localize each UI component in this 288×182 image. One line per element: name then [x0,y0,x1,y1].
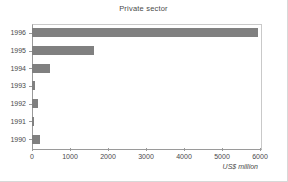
y-axis-tick [29,139,32,140]
x-axis-title: US$ million [223,163,258,170]
bar [32,81,35,90]
y-axis-tick-label: 1996 [0,24,29,42]
bar [32,99,38,108]
bar-row [32,113,260,131]
x-axis-tick [108,148,109,151]
bar [32,46,94,55]
y-axis-tick [29,121,32,122]
y-axis-tick [29,86,32,87]
y-axis-tick [29,68,32,69]
bar [32,135,40,144]
y-axis-tick-label: 1994 [0,59,29,77]
x-axis-tick-label: 5000 [214,153,230,160]
x-axis-tick [184,148,185,151]
y-axis-tick-label: 1993 [0,77,29,95]
bar-row [32,59,260,77]
x-axis-tick-label: 6000 [252,153,268,160]
bar-row [32,95,260,113]
y-axis-tick-label: 1992 [0,95,29,113]
bar [32,117,34,126]
x-axis-tick-label: 1000 [62,153,78,160]
chart-title: Private sector [0,4,287,13]
bar-row [32,24,260,42]
chart-screenshot: Private sector 1996199519941993199219911… [0,0,288,182]
y-axis-tick [29,104,32,105]
x-axis-tick-label: 2000 [100,153,116,160]
bar [32,64,50,73]
y-axis-tick [29,51,32,52]
y-axis-tick-label: 1991 [0,113,29,131]
y-axis-labels: 1996199519941993199219911990 [0,24,29,148]
bar-row [32,130,260,148]
x-axis-tick [222,148,223,151]
x-axis-tick-label: 0 [30,153,34,160]
y-axis-tick-label: 1990 [0,130,29,148]
bar [32,28,258,37]
x-axis: US$ million 0100020003000400050006000 [32,148,260,178]
x-axis-tick-label: 3000 [138,153,154,160]
x-axis-tick [146,148,147,151]
x-axis-tick [260,148,261,151]
x-axis-tick [32,148,33,151]
bars-layer [32,24,260,148]
x-axis-tick [70,148,71,151]
x-axis-tick-label: 4000 [176,153,192,160]
y-axis-tick [29,33,32,34]
bar-row [32,77,260,95]
bar-row [32,42,260,60]
y-axis-tick-label: 1995 [0,42,29,60]
